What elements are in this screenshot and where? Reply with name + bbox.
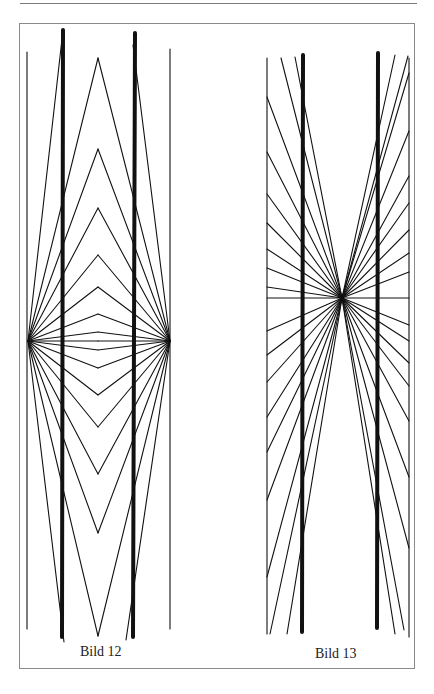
figure-bild-13 [267,53,409,637]
ray-line [342,55,395,298]
ray-line [342,131,409,298]
thick-vertical-bar [133,33,135,637]
thick-vertical-bar [302,55,303,632]
figure-bild-12 [27,30,170,642]
ray-line [342,298,404,630]
ray-line [270,298,342,634]
thick-vertical-bar [62,30,63,637]
illusion-figures [0,0,434,694]
ray-line [342,176,409,298]
thick-vertical-bar [377,53,378,628]
ray-line [28,341,64,642]
ray-line [133,45,170,341]
ray-line [342,56,408,298]
ray-line [287,298,342,634]
caption-bild-12: Bild 12 [80,644,122,660]
caption-bild-13: Bild 13 [315,646,357,662]
ray-line [281,58,342,298]
